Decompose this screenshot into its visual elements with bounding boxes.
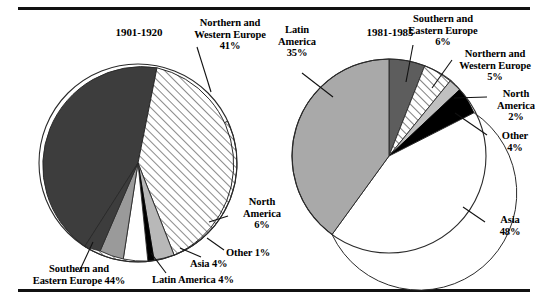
left-slice-southern-eastern-europe <box>43 67 157 247</box>
left-label-latin-america: Latin America 4% <box>152 274 260 286</box>
left-slice-north-america <box>138 163 174 260</box>
right-label-asia: Asia 48% <box>486 214 534 237</box>
right-label-northern-western-europe: Northern and Western Europe 5% <box>443 48 547 83</box>
leader-north-america <box>209 216 228 222</box>
right-pie-slices <box>292 59 517 290</box>
left-slice-asia <box>123 163 148 261</box>
right-slice-north-america <box>389 80 460 156</box>
leader-nw-europe <box>197 47 211 92</box>
right-label-latin-america: Latin America 35% <box>265 24 329 59</box>
left-pie-slices <box>39 64 237 262</box>
leader-other <box>207 238 224 250</box>
left-slice-northern-western-europe <box>85 121 237 262</box>
left-pie <box>85 121 237 262</box>
left-slice-latin-america <box>100 163 138 259</box>
left-pie-leader-lines <box>79 47 228 273</box>
right-slice-latin-america <box>292 59 389 235</box>
right-slice-other <box>389 90 474 156</box>
leader-asia <box>180 248 201 257</box>
right-slice-southern-eastern-europe <box>389 59 425 156</box>
top-rule <box>18 7 530 10</box>
right-label-north-america: North America 2% <box>487 88 545 123</box>
leader-r-se-europe <box>406 45 413 82</box>
leader-r-asia <box>463 207 485 222</box>
right-slice-northern-western-europe <box>389 66 451 156</box>
right-label-other: Other 4% <box>489 130 541 153</box>
left-pie-outline <box>39 64 237 262</box>
right-label-southern-eastern-europe: Southern and Eastern Europe 6% <box>390 13 496 48</box>
left-slice-southern-eastern-europe-tail <box>85 163 138 251</box>
left-chart-title: 1901-1920 <box>101 27 177 39</box>
left-label-asia: Asia 4% <box>190 258 250 270</box>
figure-container: 1901-1920 Northern and Western Europe 41… <box>0 0 547 308</box>
left-slice-northern-western-europe-main <box>138 68 234 255</box>
left-label-southern-eastern-europe: Southern and Eastern Europe 44% <box>4 263 154 286</box>
right-pie-outline <box>292 59 486 253</box>
leader-r-latin-america <box>302 73 333 97</box>
left-slice-other <box>138 163 154 261</box>
bottom-rule <box>18 289 530 292</box>
leader-r-north-america <box>454 97 487 98</box>
left-label-other: Other 1% <box>226 247 296 259</box>
left-label-north-america: North America 6% <box>231 196 293 231</box>
leader-r-other <box>455 113 487 135</box>
